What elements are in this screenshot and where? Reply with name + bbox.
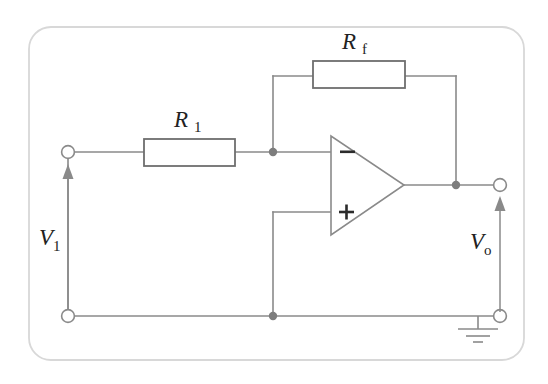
label-r1-symbol: R xyxy=(173,107,188,132)
node-ground-rail-junction xyxy=(269,312,277,320)
resistor-r1-body xyxy=(144,139,235,166)
figure-panel-border xyxy=(29,27,524,360)
node-inverting-junction xyxy=(269,148,277,156)
label-v1-subscript: 1 xyxy=(53,238,61,254)
terminal-input-positive xyxy=(62,146,75,159)
opamp-noninverting-sign-icon-v xyxy=(345,205,348,220)
resistor-rf-body xyxy=(313,61,405,88)
label-rf-symbol: R xyxy=(341,29,356,54)
circuit-figure: R f R 1 V 1 V o xyxy=(0,0,548,384)
label-vo-subscript: o xyxy=(484,242,492,258)
voltage-v1-arrow-head-icon xyxy=(63,164,74,179)
label-r1-subscript: 1 xyxy=(194,119,202,135)
circuit-diagram-canvas: R f R 1 V 1 V o xyxy=(0,0,548,384)
terminal-output-positive xyxy=(494,179,507,192)
voltage-vo-arrow-head-icon xyxy=(495,196,506,211)
opamp-inverting-sign-icon xyxy=(340,151,355,154)
node-output-junction xyxy=(452,181,460,189)
terminal-input-negative xyxy=(62,310,75,323)
label-rf-subscript: f xyxy=(362,41,367,57)
